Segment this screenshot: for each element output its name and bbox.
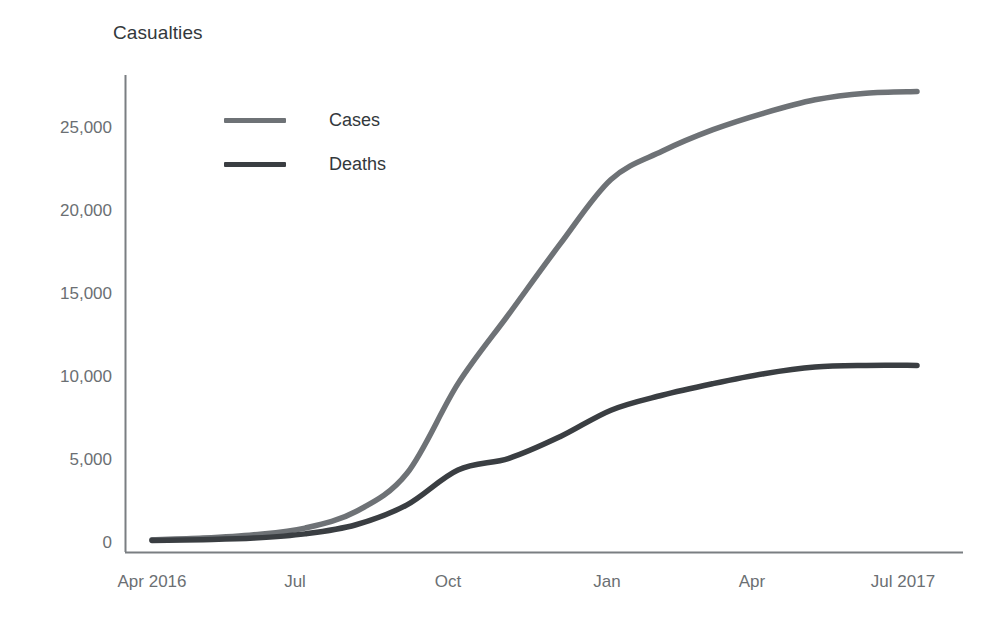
legend-swatch-deaths: [224, 162, 286, 167]
chart-container: Casualties 25,000 20,000 15,000 10,000 5…: [0, 0, 983, 621]
legend-item-cases[interactable]: Cases: [224, 98, 386, 142]
chart-legend: Cases Deaths: [224, 98, 386, 186]
plot-area: [0, 0, 983, 621]
legend-swatch-cases: [224, 118, 286, 123]
line-series-deaths: [152, 365, 917, 540]
legend-item-deaths[interactable]: Deaths: [224, 142, 386, 186]
legend-label-deaths: Deaths: [329, 154, 386, 175]
legend-label-cases: Cases: [329, 110, 380, 131]
